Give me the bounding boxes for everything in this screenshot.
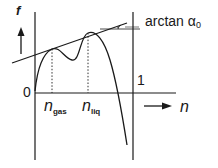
boundary-one-label: 1: [137, 73, 145, 87]
f-arrow-icon: [18, 27, 25, 54]
origin-label: 0: [23, 85, 31, 99]
tangent-slope-text: arctan α: [145, 13, 196, 29]
n-gas-base: n: [44, 97, 53, 114]
y-axis-label: f: [16, 4, 20, 17]
tangent-slope-label: arctan α0: [145, 14, 201, 30]
n-gas-subscript: gas: [53, 107, 67, 116]
n-gas-label: ngas: [44, 98, 67, 116]
free-energy-diagram: f 0 1 arctan α0 ngas nliq n: [0, 0, 218, 168]
n-arrow-icon: [144, 103, 172, 110]
n-liq-label: nliq: [82, 98, 100, 116]
x-axis-label: n: [180, 99, 189, 115]
free-energy-curve: [35, 32, 127, 145]
n-liq-subscript: liq: [91, 107, 100, 116]
n-liq-base: n: [82, 97, 91, 114]
tangent-slope-subscript: 0: [196, 20, 201, 30]
tangent-angle-marker: [100, 25, 140, 29]
